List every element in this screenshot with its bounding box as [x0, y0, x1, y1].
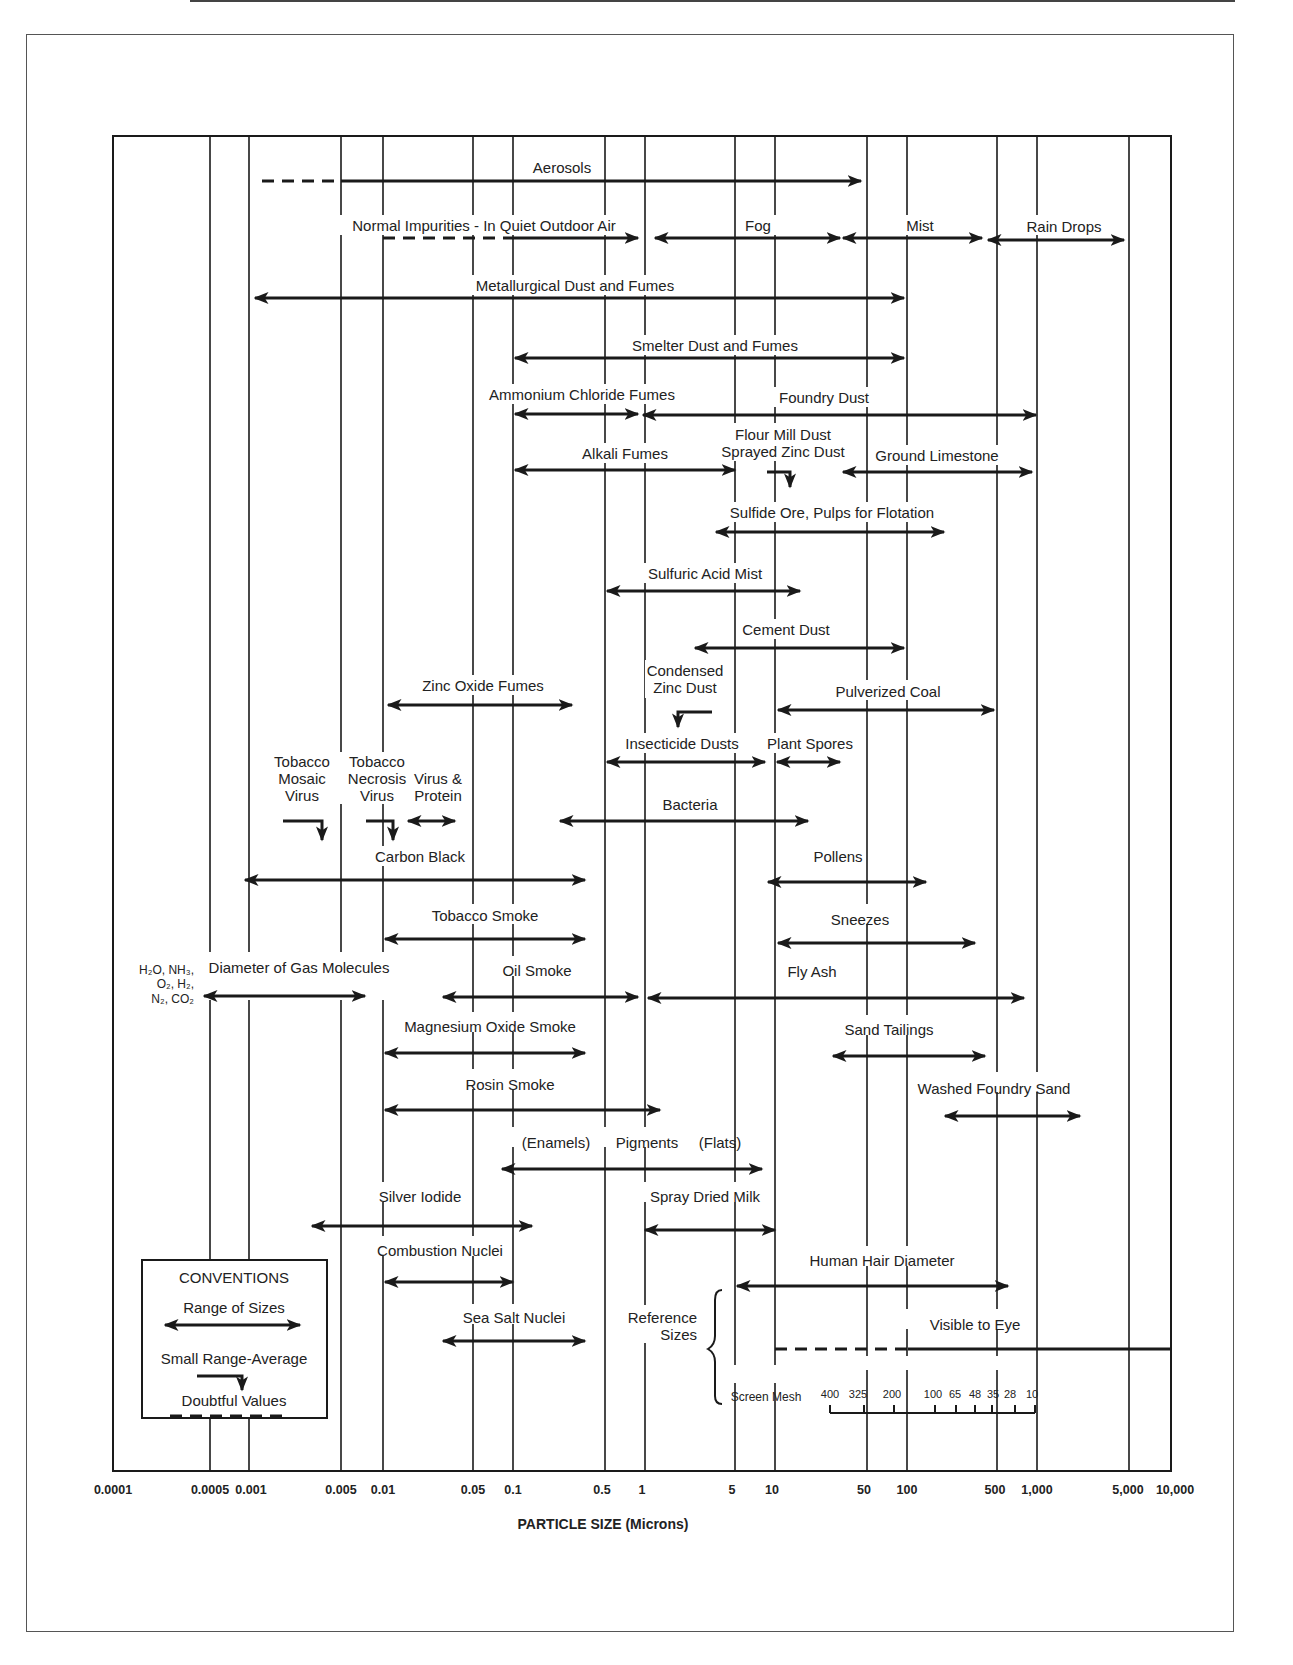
label-condensed-2: Zinc Dust	[653, 679, 717, 696]
label-gas-molecules: Diameter of Gas Molecules	[209, 959, 390, 976]
label-rain-drops: Rain Drops	[1026, 218, 1101, 235]
svg-text:400: 400	[821, 1388, 839, 1400]
legend-title: CONVENTIONS	[179, 1269, 289, 1286]
legend-small-label: Small Range-Average	[161, 1350, 307, 1367]
label-pollens: Pollens	[813, 848, 862, 865]
svg-text:10: 10	[765, 1483, 779, 1497]
label-screen-mesh: Screen Mesh	[731, 1390, 802, 1404]
svg-text:65: 65	[949, 1388, 961, 1400]
label-insecticide: Insecticide Dusts	[625, 735, 738, 752]
label-oil-smoke: Oil Smoke	[502, 962, 571, 979]
svg-text:10: 10	[1026, 1388, 1038, 1400]
reference-brace-icon	[708, 1290, 722, 1404]
label-flats: (Flats)	[699, 1134, 742, 1151]
small-avg-flour-mill	[767, 472, 790, 487]
svg-text:100: 100	[924, 1388, 942, 1400]
label-zinc-oxide: Zinc Oxide Fumes	[422, 677, 544, 694]
svg-text:1: 1	[639, 1483, 646, 1497]
label-vp-1: Virus &	[414, 770, 462, 787]
label-reference-2: Sizes	[660, 1326, 697, 1343]
label-gas-3: N₂, CO₂	[151, 992, 194, 1006]
legend-doubtful-label: Doubtful Values	[182, 1392, 287, 1409]
label-ammonium: Ammonium Chloride Fumes	[489, 386, 675, 403]
small-avg-tobacco-necrosis	[366, 821, 393, 840]
label-carbon-black: Carbon Black	[375, 848, 466, 865]
label-tobacco-smoke: Tobacco Smoke	[432, 907, 539, 924]
label-sneezes: Sneezes	[831, 911, 889, 928]
svg-text:0.0005: 0.0005	[191, 1483, 229, 1497]
svg-text:28: 28	[1004, 1388, 1016, 1400]
label-spray-milk: Spray Dried Milk	[650, 1188, 761, 1205]
svg-text:0.005: 0.005	[325, 1483, 356, 1497]
label-gas-2: O₂, H₂,	[157, 977, 194, 991]
label-foundry-dust: Foundry Dust	[779, 389, 870, 406]
small-avg-tobacco-mosaic	[283, 821, 322, 840]
screen-mesh-labels: 400 325 200 100 65 48 35 28 10	[821, 1388, 1038, 1400]
label-aerosols: Aerosols	[533, 159, 591, 176]
label-plant-spores: Plant Spores	[767, 735, 853, 752]
svg-text:50: 50	[857, 1483, 871, 1497]
label-mist: Mist	[906, 217, 934, 234]
label-cement: Cement Dust	[742, 621, 830, 638]
label-condensed-1: Condensed	[647, 662, 724, 679]
particle-size-chart: Aerosols Normal Impurities - In Quiet Ou…	[0, 0, 1293, 1665]
label-fog: Fog	[745, 217, 771, 234]
label-mgo-smoke: Magnesium Oxide Smoke	[404, 1018, 576, 1035]
label-smelter: Smelter Dust and Fumes	[632, 337, 798, 354]
label-ground-limestone: Ground Limestone	[875, 447, 998, 464]
svg-text:325: 325	[849, 1388, 867, 1400]
label-combustion: Combustion Nuclei	[377, 1242, 503, 1259]
svg-text:35: 35	[987, 1388, 999, 1400]
svg-text:5: 5	[729, 1483, 736, 1497]
label-tmv-2: Mosaic	[278, 770, 326, 787]
label-reference-1: Reference	[628, 1309, 697, 1326]
label-sulfide-ore: Sulfide Ore, Pulps for Flotation	[730, 504, 934, 521]
label-metallurgical: Metallurgical Dust and Fumes	[476, 277, 674, 294]
label-sand-tailings: Sand Tailings	[845, 1021, 934, 1038]
label-enamels: (Enamels)	[522, 1134, 590, 1151]
svg-text:0.5: 0.5	[593, 1483, 610, 1497]
label-sea-salt: Sea Salt Nuclei	[463, 1309, 566, 1326]
range-labels: Aerosols Normal Impurities - In Quiet Ou…	[139, 159, 1101, 1404]
label-fly-ash: Fly Ash	[787, 963, 836, 980]
label-vp-2: Protein	[414, 787, 462, 804]
label-alkali: Alkali Fumes	[582, 445, 668, 462]
label-sulfuric: Sulfuric Acid Mist	[648, 565, 763, 582]
svg-text:0.1: 0.1	[504, 1483, 521, 1497]
svg-text:0.01: 0.01	[371, 1483, 395, 1497]
svg-text:100: 100	[897, 1483, 918, 1497]
x-axis-ticks: 0.0001 0.0005 0.001 0.005 0.01 0.05 0.1 …	[94, 1483, 1194, 1497]
label-gas-1: H₂O, NH₃,	[139, 963, 194, 977]
label-tnv-1: Tobacco	[349, 753, 405, 770]
small-avg-condensed-zinc	[678, 712, 712, 727]
label-pulverized: Pulverized Coal	[835, 683, 940, 700]
legend-range-label: Range of Sizes	[183, 1299, 285, 1316]
screen-mesh-scale	[830, 1405, 1035, 1413]
svg-text:0.001: 0.001	[235, 1483, 266, 1497]
label-sprayed-zinc: Sprayed Zinc Dust	[721, 443, 845, 460]
label-tnv-3: Virus	[360, 787, 394, 804]
label-tnv-2: Necrosis	[348, 770, 406, 787]
svg-text:0.05: 0.05	[461, 1483, 485, 1497]
label-washed-sand: Washed Foundry Sand	[918, 1080, 1071, 1097]
label-rosin: Rosin Smoke	[465, 1076, 554, 1093]
svg-text:500: 500	[985, 1483, 1006, 1497]
label-normal-impurities: Normal Impurities - In Quiet Outdoor Air	[352, 217, 615, 234]
label-visible: Visible to Eye	[930, 1316, 1021, 1333]
label-bacteria: Bacteria	[662, 796, 718, 813]
label-tmv-1: Tobacco	[274, 753, 330, 770]
svg-text:0.0001: 0.0001	[94, 1483, 132, 1497]
label-tmv-3: Virus	[285, 787, 319, 804]
svg-text:10,000: 10,000	[1156, 1483, 1194, 1497]
svg-text:5,000: 5,000	[1112, 1483, 1143, 1497]
label-human-hair: Human Hair Diameter	[809, 1252, 954, 1269]
label-pigments: Pigments	[616, 1134, 679, 1151]
svg-text:48: 48	[969, 1388, 981, 1400]
label-flour-mill: Flour Mill Dust	[735, 426, 832, 443]
svg-text:1,000: 1,000	[1021, 1483, 1052, 1497]
x-axis-title: PARTICLE SIZE (Microns)	[518, 1516, 689, 1532]
svg-text:200: 200	[883, 1388, 901, 1400]
label-silver-iodide: Silver Iodide	[379, 1188, 462, 1205]
